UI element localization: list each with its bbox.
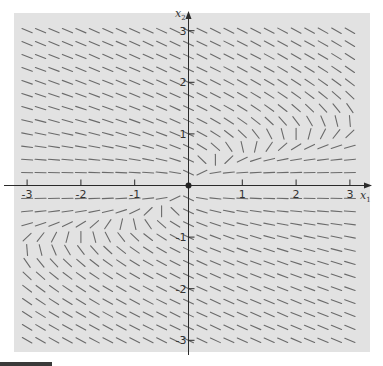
- slope-segment: [344, 211, 355, 212]
- x-tick-label: 2: [293, 188, 300, 201]
- y-tick-label: 2: [180, 76, 187, 89]
- direction-field-chart: -3-2-1123 -3-2-1123 x1 x2: [0, 0, 383, 366]
- y-axis-label: x2: [175, 7, 186, 22]
- y-tick-label: 1: [180, 128, 187, 141]
- slope-segment: [250, 172, 261, 173]
- slope-segment: [22, 159, 33, 160]
- decorative-bar: [0, 362, 52, 366]
- x-tick-label: -1: [129, 188, 140, 201]
- slope-segment: [129, 172, 140, 173]
- x-tick-label: 3: [346, 188, 353, 201]
- slope-segment: [116, 198, 127, 199]
- y-tick-label: 3: [180, 25, 187, 38]
- origin-marker: [186, 183, 192, 189]
- x-tick-label: -2: [75, 188, 86, 201]
- y-tick-label: -1: [176, 231, 187, 244]
- x-tick-label: -3: [22, 188, 33, 201]
- slope-segment: [237, 172, 248, 173]
- y-tick-label: -3: [176, 334, 187, 347]
- slope-segment: [223, 198, 234, 199]
- x-tick-label: 1: [239, 188, 246, 201]
- slope-segment: [143, 172, 154, 173]
- y-tick-label: -2: [176, 283, 187, 296]
